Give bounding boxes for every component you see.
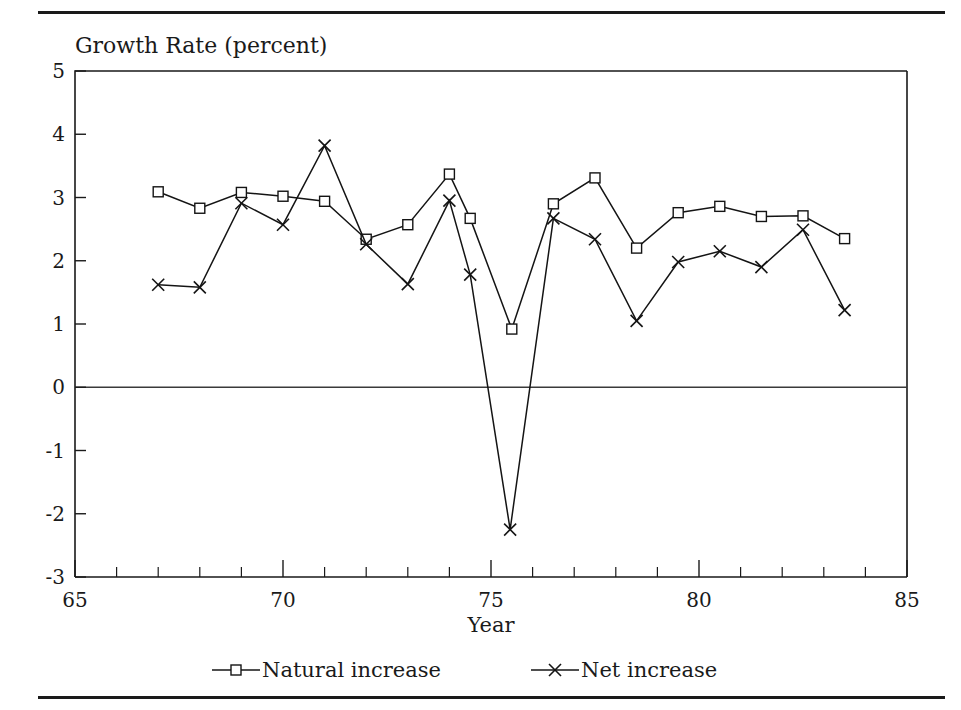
series-polyline <box>158 174 844 329</box>
data-point-square-17 <box>840 234 850 244</box>
legend-item-net-increase: Net increase <box>531 658 717 682</box>
y-axis-tick-labels: 543210-1-2-3 <box>46 59 65 589</box>
y-tick-label-3: 2 <box>52 249 65 273</box>
x-tick-label-3: 80 <box>686 588 711 612</box>
page-root: Growth Rate (percent) 543210-1-2-3 65707… <box>0 0 961 710</box>
data-point-square-12 <box>632 243 642 253</box>
y-tick-label-1: 4 <box>52 122 65 146</box>
data-point-x-12 <box>631 315 643 327</box>
data-point-square-3 <box>278 191 288 201</box>
chart-axes <box>75 71 907 577</box>
bottom-divider-rule <box>38 696 945 699</box>
y-tick-label-5: 0 <box>52 375 65 399</box>
marker-square-icon <box>278 191 288 201</box>
data-point-x-11 <box>589 233 601 245</box>
series-net-increase <box>152 140 850 536</box>
data-point-square-6 <box>403 220 413 230</box>
plot-title: Growth Rate (percent) <box>75 33 327 58</box>
data-point-square-1 <box>195 203 205 213</box>
data-point-x-6 <box>402 278 414 290</box>
series-polyline <box>158 146 844 530</box>
data-point-x-17 <box>839 304 851 316</box>
marker-square-icon <box>444 169 454 179</box>
data-point-square-8 <box>465 213 475 223</box>
marker-square-icon <box>320 196 330 206</box>
data-point-square-14 <box>715 201 725 211</box>
x-axis-title: Year <box>466 613 515 637</box>
chart-legend: Natural increase Net increase <box>212 658 717 682</box>
marker-square-icon <box>632 243 642 253</box>
marker-square-icon <box>840 234 850 244</box>
marker-square-icon <box>153 187 163 197</box>
data-point-square-2 <box>236 187 246 197</box>
data-point-x-4 <box>319 140 331 152</box>
marker-square-icon <box>236 187 246 197</box>
y-tick-label-6: -1 <box>46 439 65 463</box>
data-point-square-9 <box>507 324 517 334</box>
data-point-square-11 <box>590 173 600 183</box>
marker-square-icon <box>673 208 683 218</box>
legend-item-natural-increase: Natural increase <box>212 658 441 682</box>
data-point-square-7 <box>444 169 454 179</box>
data-point-x-16 <box>797 224 809 236</box>
y-tick-label-2: 3 <box>52 186 65 210</box>
x-tick-label-0: 65 <box>62 588 87 612</box>
data-point-square-0 <box>153 187 163 197</box>
legend-marker-x-icon <box>531 664 579 676</box>
x-tick-label-2: 75 <box>478 588 503 612</box>
marker-square-icon <box>756 211 766 221</box>
marker-square-icon <box>548 199 558 209</box>
y-tick-label-4: 1 <box>52 312 65 336</box>
legend-marker-square-icon <box>212 665 260 675</box>
y-tick-label-7: -2 <box>46 502 65 526</box>
x-tick-label-4: 85 <box>894 588 919 612</box>
data-point-x-13 <box>672 256 684 268</box>
data-point-square-13 <box>673 208 683 218</box>
x-axis-ticks <box>75 560 907 577</box>
data-point-x-14 <box>714 245 726 257</box>
marker-square-icon <box>465 213 475 223</box>
data-point-square-16 <box>798 211 808 221</box>
data-point-square-15 <box>756 211 766 221</box>
marker-square-icon <box>195 203 205 213</box>
marker-square-icon <box>507 324 517 334</box>
series-natural-increase <box>153 169 849 334</box>
data-point-x-15 <box>755 261 767 273</box>
data-point-x-3 <box>277 219 289 231</box>
marker-square-icon <box>403 220 413 230</box>
data-point-square-10 <box>548 199 558 209</box>
growth-rate-line-chart: Growth Rate (percent) 543210-1-2-3 65707… <box>0 20 961 690</box>
legend-label-natural-increase: Natural increase <box>262 658 441 682</box>
marker-square-icon <box>715 201 725 211</box>
top-divider-rule <box>38 11 945 14</box>
data-point-x-7 <box>443 195 455 207</box>
data-point-x-2 <box>235 197 247 209</box>
chart-figure: Growth Rate (percent) 543210-1-2-3 65707… <box>0 20 961 690</box>
x-tick-label-1: 70 <box>270 588 295 612</box>
legend-square-glyph <box>231 665 241 675</box>
axis-frame <box>75 71 907 577</box>
marker-square-icon <box>798 211 808 221</box>
legend-label-net-increase: Net increase <box>581 658 717 682</box>
marker-square-icon <box>590 173 600 183</box>
data-point-square-4 <box>320 196 330 206</box>
y-tick-label-8: -3 <box>46 565 65 589</box>
y-axis-ticks <box>75 71 86 577</box>
y-tick-label-0: 5 <box>52 59 65 83</box>
x-axis-tick-labels: 6570758085 <box>62 588 919 612</box>
